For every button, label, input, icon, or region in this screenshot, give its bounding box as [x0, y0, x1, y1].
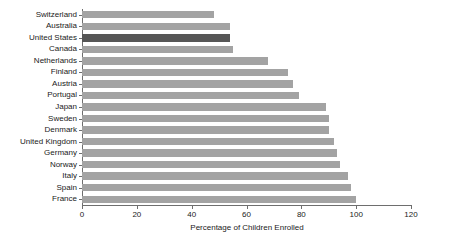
x-axis-tick-label: 20 [132, 211, 141, 219]
bar-row: Canada [82, 44, 411, 56]
bar-row: Australia [82, 21, 411, 33]
x-axis-tick-label: 0 [80, 211, 84, 219]
x-axis-tick [192, 205, 193, 209]
bar-row: Finland [82, 67, 411, 79]
category-label: Australia [46, 22, 77, 30]
bar-chart: SwitzerlandAustraliaUnited StatesCanadaN… [0, 0, 460, 242]
x-axis-tick [82, 205, 83, 209]
bar [82, 57, 268, 64]
x-axis-tick [356, 205, 357, 209]
x-axis-tick-label: 80 [297, 211, 306, 219]
bar-row: Germany [82, 147, 411, 159]
bar [82, 11, 214, 18]
category-label: Norway [50, 161, 77, 169]
category-label: Denmark [45, 126, 77, 134]
category-label: Switzerland [36, 11, 77, 19]
x-axis-tick [137, 205, 138, 209]
bar [82, 172, 348, 179]
x-axis-tick [247, 205, 248, 209]
bar [82, 196, 356, 203]
x-axis-title: Percentage of Children Enrolled [82, 224, 412, 232]
category-label: Germany [44, 149, 77, 157]
bar [82, 34, 230, 41]
x-axis-tick-label: 100 [349, 211, 362, 219]
bar [82, 126, 329, 133]
x-axis-tick-label: 60 [242, 211, 251, 219]
bar [82, 115, 329, 122]
plot-area: SwitzerlandAustraliaUnited StatesCanadaN… [82, 9, 411, 205]
category-label: United Kingdom [20, 138, 77, 146]
bar-row: Japan [82, 101, 411, 113]
bar [82, 92, 299, 99]
bar [82, 69, 288, 76]
bar-row: United Kingdom [82, 136, 411, 148]
x-axis-tick-label: 120 [404, 211, 417, 219]
bar-row: Norway [82, 159, 411, 171]
bar-row: Italy [82, 170, 411, 182]
bar-row: Austria [82, 78, 411, 90]
category-label: Sweden [48, 115, 77, 123]
category-label: Portugal [47, 91, 77, 99]
x-axis-tick [301, 205, 302, 209]
bar-row: Sweden [82, 113, 411, 125]
category-label: Canada [49, 45, 77, 53]
bar [82, 23, 230, 30]
bar [82, 149, 337, 156]
bar [82, 184, 351, 191]
category-label: Austria [52, 80, 77, 88]
category-label: Finland [51, 68, 77, 76]
category-label: France [52, 195, 77, 203]
category-label: United States [29, 34, 77, 42]
x-axis-tick [411, 205, 412, 209]
bar-row: Portugal [82, 90, 411, 102]
bar-row: Netherlands [82, 55, 411, 67]
bar [82, 80, 293, 87]
category-label: Netherlands [34, 57, 77, 65]
bar-row: France [82, 193, 411, 205]
bar-row: United States [82, 32, 411, 44]
bar-row: Denmark [82, 124, 411, 136]
bar [82, 103, 326, 110]
category-label: Japan [55, 103, 77, 111]
bar [82, 138, 334, 145]
x-axis-tick-label: 40 [187, 211, 196, 219]
bar-row: Switzerland [82, 9, 411, 21]
bar [82, 46, 233, 53]
bar [82, 161, 340, 168]
category-label: Italy [62, 172, 77, 180]
bar-row: Spain [82, 182, 411, 194]
category-label: Spain [57, 184, 77, 192]
